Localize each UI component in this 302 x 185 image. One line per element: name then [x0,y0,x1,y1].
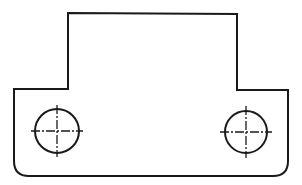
left-mounting-hole [31,105,83,157]
part-outline [14,13,288,176]
drawing-canvas [0,0,302,185]
part-drawing [0,0,302,185]
right-mounting-hole [220,106,272,158]
